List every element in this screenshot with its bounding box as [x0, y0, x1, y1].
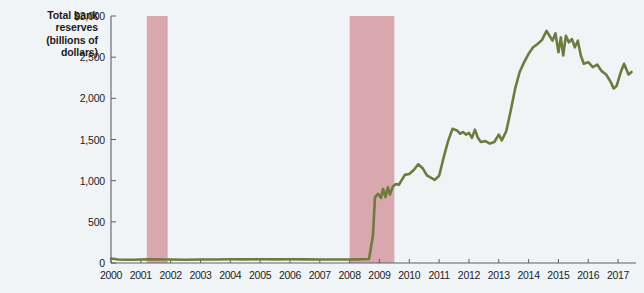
y-tick-label: 2,000 [59, 92, 105, 104]
x-tick-label: 2017 [598, 269, 638, 281]
y-tick-label: $3,000 [59, 10, 105, 22]
y-tick-label: 1,500 [59, 134, 105, 146]
y-tick-label: 2,500 [59, 51, 105, 63]
recession-bands-group [147, 16, 395, 263]
y-tick-label: 0 [59, 257, 105, 269]
recession-band-1 [147, 16, 168, 263]
chart-figure: Total bank reserves (billions of dollars… [0, 0, 644, 293]
y-tick-label: 1,000 [59, 175, 105, 187]
plot-area [0, 0, 644, 293]
y-tick-label: 500 [59, 216, 105, 228]
recession-band-2 [350, 16, 395, 263]
